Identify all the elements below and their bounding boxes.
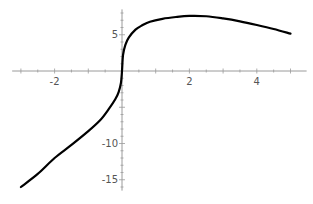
axes: [12, 9, 306, 190]
chart: -2245-10-15: [0, 0, 313, 204]
tick-labels: -2245-10-15: [50, 29, 260, 185]
x-tick-label: 2: [186, 76, 192, 87]
ticks: [21, 13, 291, 187]
series: [21, 16, 291, 187]
y-tick-label: 5: [112, 29, 118, 40]
series-line: [21, 16, 291, 187]
x-tick-label: 4: [254, 76, 260, 87]
y-tick-label: -10: [102, 138, 118, 149]
x-tick-label: -2: [50, 76, 60, 87]
y-tick-label: -15: [102, 174, 118, 185]
